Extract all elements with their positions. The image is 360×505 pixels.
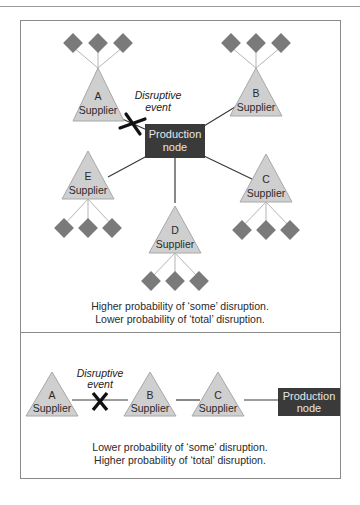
supplier-label: Supplier (33, 402, 72, 414)
sub-supplier-icon (141, 271, 161, 291)
supplier-label: Supplier (156, 238, 195, 250)
supply-network-diagram: A Supplier B Supplier E Supplier C (0, 0, 360, 505)
caption-line: Lower probability of ‘total’ disruption. (0, 313, 360, 326)
disruption-x-icon (120, 114, 145, 134)
sub-supplier-icon (78, 218, 98, 238)
supplier-letter: A (48, 389, 55, 401)
top-supplier-a: A Supplier (63, 33, 133, 121)
top-panel-caption: Higher probability of ‘some’ disruption.… (0, 300, 360, 326)
supplier-label: Supplier (79, 104, 118, 116)
node-label-line2: node (297, 402, 321, 414)
supplier-letter: C (214, 389, 222, 401)
node-label-line1: Production (149, 128, 202, 140)
caption-line: Lower probability of ‘some’ disruption. (0, 441, 360, 454)
supplier-letter: B (146, 389, 153, 401)
sub-supplier-icon (165, 271, 185, 291)
sub-supplier-icon (189, 271, 209, 291)
supplier-label: Supplier (237, 101, 276, 113)
sub-supplier-icon (54, 218, 74, 238)
sub-supplier-icon (256, 220, 276, 240)
supplier-letter: C (262, 173, 270, 185)
sub-supplier-icon (221, 33, 241, 53)
bottom-supplier-b: B Supplier (124, 372, 176, 416)
top-supplier-e: E Supplier (54, 151, 122, 238)
event-label-line2: event (145, 101, 172, 113)
supplier-label: Supplier (199, 402, 238, 414)
top-supplier-c: C Supplier (232, 154, 300, 240)
supplier-letter: B (252, 87, 259, 99)
sub-supplier-icon (63, 33, 83, 53)
sub-supplier-icon (88, 33, 108, 53)
sub-supplier-icon (232, 220, 252, 240)
supplier-letter: E (84, 170, 91, 182)
sub-supplier-icon (271, 33, 291, 53)
bottom-supplier-a: A Supplier (26, 372, 78, 416)
sub-supplier-icon (280, 220, 300, 240)
supplier-label: Supplier (69, 184, 108, 196)
top-supplier-d: D Supplier (141, 206, 209, 291)
sub-supplier-icon (113, 33, 133, 53)
top-production-node: Production node (145, 124, 205, 158)
node-label-line2: node (163, 141, 187, 153)
top-supplier-b: B Supplier (221, 33, 291, 116)
bottom-production-node: Production node (278, 388, 340, 416)
event-label-line2: event (87, 378, 114, 390)
supplier-letter: A (94, 90, 101, 102)
disruption-x-icon (93, 393, 107, 410)
bottom-supplier-c: C Supplier (192, 372, 244, 416)
supplier-letter: D (171, 224, 179, 236)
caption-line: Higher probability of ‘total’ disruption… (0, 454, 360, 467)
sub-supplier-icon (102, 218, 122, 238)
node-label-line1: Production (283, 390, 336, 402)
bottom-panel-caption: Lower probability of ‘some’ disruption. … (0, 441, 360, 467)
supplier-label: Supplier (131, 402, 170, 414)
caption-line: Higher probability of ‘some’ disruption. (0, 300, 360, 313)
sub-supplier-icon (246, 33, 266, 53)
bottom-disruptive-event: Disruptive event (77, 367, 124, 410)
event-label-line1: Disruptive (135, 89, 182, 101)
supplier-label: Supplier (247, 187, 286, 199)
